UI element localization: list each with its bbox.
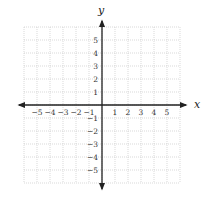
y-tick-label: 1 bbox=[93, 88, 98, 97]
x-tick-label: 4 bbox=[152, 108, 157, 117]
y-tick-label: 5 bbox=[93, 36, 98, 45]
y-tick-label: −1 bbox=[87, 114, 98, 123]
y-axis-label: y bbox=[97, 4, 105, 17]
x-tick-label: 5 bbox=[165, 108, 170, 117]
x-tick-label: −5 bbox=[31, 108, 42, 117]
y-tick-label: 3 bbox=[93, 62, 98, 71]
x-tick-label: 1 bbox=[113, 108, 118, 117]
y-tick-label: 2 bbox=[93, 75, 98, 84]
y-tick-label: −3 bbox=[87, 140, 98, 149]
coordinate-plane: x y −5−4−3−2−112345 54321−1−2−3−4−5 bbox=[0, 0, 211, 203]
x-tick-labels: −5−4−3−2−112345 bbox=[31, 108, 169, 117]
x-axis-label: x bbox=[194, 98, 201, 111]
y-tick-label: −2 bbox=[87, 127, 98, 136]
x-tick-label: −3 bbox=[57, 108, 68, 117]
y-tick-label: −4 bbox=[87, 153, 98, 162]
y-tick-label: 4 bbox=[93, 49, 98, 58]
x-tick-label: −4 bbox=[44, 108, 55, 117]
x-tick-label: 2 bbox=[126, 108, 131, 117]
y-tick-label: −5 bbox=[87, 166, 98, 175]
x-tick-label: 3 bbox=[139, 108, 144, 117]
x-tick-label: −2 bbox=[70, 108, 81, 117]
